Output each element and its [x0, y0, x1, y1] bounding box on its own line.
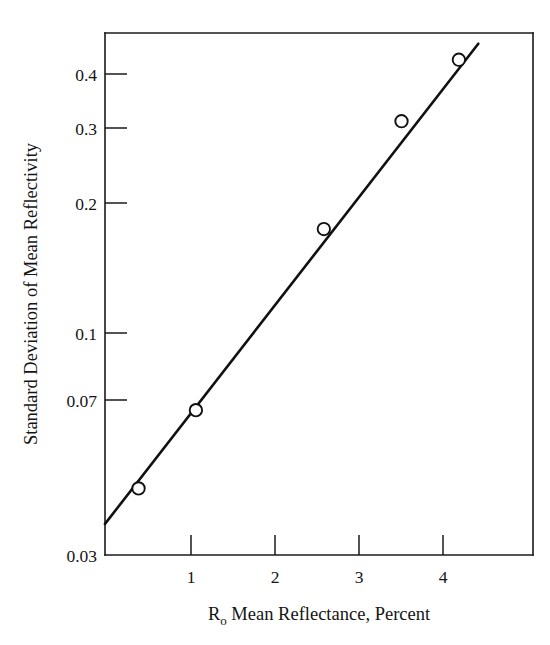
y-axis-ticks [105, 74, 127, 400]
data-point-marker [395, 115, 407, 127]
data-point-marker [190, 404, 202, 416]
x-tick-label-2: 2 [271, 567, 280, 587]
x-tick-label-4: 4 [439, 567, 448, 587]
y-tick-label-0.1: 0.1 [75, 324, 97, 344]
x-axis-ticks [191, 535, 443, 555]
x-tick-label-1: 1 [187, 567, 196, 587]
y-tick-label-0.4: 0.4 [75, 65, 97, 85]
axis-frame [105, 33, 533, 555]
y-tick-label-0.2: 0.2 [75, 194, 97, 214]
y-tick-label-0.07: 0.07 [66, 391, 97, 411]
y-tick-label-0.3: 0.3 [75, 119, 97, 139]
figure-container: 0.4 0.3 0.2 0.1 0.07 0.03 1 2 3 4 Ro Mea… [0, 0, 550, 645]
x-axis-title: Ro Mean Reflectance, Percent [208, 604, 431, 628]
x-tick-labels: 1 2 3 4 [187, 567, 448, 587]
x-tick-label-3: 3 [355, 567, 364, 587]
chart-plot: 0.4 0.3 0.2 0.1 0.07 0.03 1 2 3 4 Ro Mea… [0, 0, 550, 645]
data-point-marker [132, 482, 144, 494]
data-point-marker [318, 223, 330, 235]
y-tick-labels: 0.4 0.3 0.2 0.1 0.07 0.03 [66, 65, 97, 566]
data-point-marker [453, 54, 465, 66]
fitted-trend-line [105, 44, 478, 524]
y-tick-label-0.03: 0.03 [66, 546, 97, 566]
y-axis-title: Standard Deviation of Mean Reflectivity [21, 142, 41, 445]
